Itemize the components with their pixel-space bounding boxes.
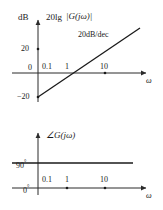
bode-plot-figure: dB 20lg |G(jω)| 20dB/dec 20 0 −20 0.1 1 … bbox=[0, 0, 163, 210]
phase-ytick-0-label: 0° bbox=[23, 184, 29, 195]
magnitude-xtick-1-label: 1 bbox=[65, 63, 69, 71]
phase-xtick-10-label: 10 bbox=[100, 176, 108, 184]
phase-xtick-01-label: 0.1 bbox=[42, 176, 52, 184]
magnitude-xtick-10-label: 10 bbox=[100, 63, 108, 71]
phase-ytick-90-label: 90° bbox=[16, 159, 26, 170]
magnitude-xtick-10-dot bbox=[104, 72, 107, 75]
slope-annotation: 20dB/dec bbox=[78, 31, 109, 39]
magnitude-xtick-01-label: 0.1 bbox=[42, 63, 52, 71]
magnitude-plot-title-expression: |G(jω)| bbox=[66, 12, 92, 21]
phase-ytick-90-value: 90 bbox=[16, 161, 24, 170]
phase-xtick-1-dot bbox=[66, 187, 69, 190]
magnitude-ytick-neg20-label: −20 bbox=[17, 93, 30, 101]
phase-ytick-90-degree-sign: ° bbox=[24, 159, 26, 165]
magnitude-omega-axis-label: ω bbox=[146, 77, 152, 85]
magnitude-ytick-20-dot bbox=[37, 48, 40, 51]
magnitude-ytick-0-label: 0 bbox=[28, 64, 32, 72]
phase-xtick-1-label: 1 bbox=[65, 176, 69, 184]
magnitude-db-axis-label: dB bbox=[18, 13, 29, 22]
magnitude-plot-title-prefix: 20lg bbox=[46, 13, 62, 22]
phase-plot-title: ∠G(jω) bbox=[46, 131, 75, 140]
phase-xtick-10-dot bbox=[104, 187, 107, 190]
phase-omega-axis-label: ω bbox=[146, 192, 152, 200]
phase-ytick-0-degree-sign: ° bbox=[27, 184, 29, 190]
magnitude-ytick-20-label: 20 bbox=[21, 45, 29, 53]
phase-plot-group bbox=[12, 133, 146, 195]
